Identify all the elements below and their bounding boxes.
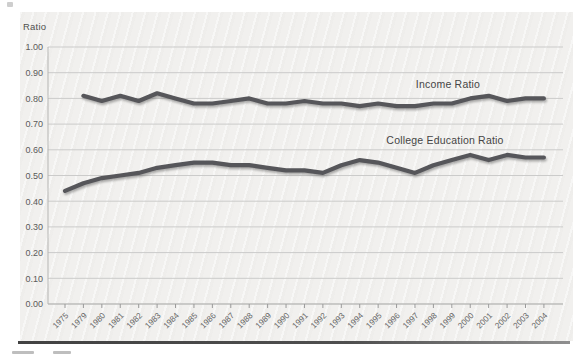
bottom-rule <box>18 341 570 344</box>
x-axis-tick-label: 1986 <box>199 311 219 331</box>
x-axis-tick-label: 1988 <box>235 311 255 331</box>
x-axis-tick-label: 1984 <box>162 311 182 331</box>
x-axis-tick-label: 1983 <box>143 311 163 331</box>
corner-artifact <box>7 2 13 7</box>
y-axis-tick-label: 0.00 <box>25 299 43 309</box>
x-axis-tick-label: 2001 <box>475 311 495 331</box>
y-axis-tick-label: 0.50 <box>25 171 43 181</box>
x-axis-tick-label: 1985 <box>180 311 200 331</box>
y-axis-tick-label: 0.30 <box>25 222 43 232</box>
x-axis-tick-label: 1990 <box>272 311 292 331</box>
x-axis-tick-label: 1979 <box>70 311 90 331</box>
y-axis-tick-label: 0.70 <box>25 119 43 129</box>
x-axis-tick-label: 1999 <box>438 311 458 331</box>
x-axis-tick-label: 1996 <box>383 311 403 331</box>
y-axis-tick-label: 0.40 <box>25 197 43 207</box>
page: { "window": { "width": 573, "height": 35… <box>0 0 573 356</box>
clipped-caption-fragment <box>53 351 71 354</box>
clipped-caption-fragment <box>12 351 34 354</box>
ratio-line-chart: 1.000.900.800.700.600.500.400.300.200.10… <box>20 12 573 341</box>
income-ratio-line <box>83 93 544 106</box>
y-axis-tick-label: 0.80 <box>25 94 43 104</box>
college-education-ratio-label: College Education Ratio <box>386 134 503 146</box>
x-axis-tick-label: 1995 <box>364 311 384 331</box>
x-axis-tick-label: 2002 <box>493 311 513 331</box>
y-axis-tick-label: 1.00 <box>25 42 43 52</box>
income-ratio-label: Income Ratio <box>416 78 480 90</box>
college-education-ratio-line <box>65 155 544 191</box>
x-axis-tick-label: 1992 <box>309 311 329 331</box>
x-axis-tick-label: 1980 <box>88 311 108 331</box>
y-axis-tick-label: 0.90 <box>25 68 43 78</box>
x-axis-tick-label: 2000 <box>456 311 476 331</box>
chart-panel: Ratio 1.000.900.800.700.600.500.400.300.… <box>20 12 573 341</box>
x-axis-tick-label: 1998 <box>420 311 440 331</box>
x-axis-tick-label: 1994 <box>346 311 366 331</box>
x-axis-tick-label: 1991 <box>291 311 311 331</box>
x-axis-tick-label: 1989 <box>254 311 274 331</box>
x-axis-tick-label: 1997 <box>401 311 421 331</box>
x-axis-tick-label: 1981 <box>106 311 126 331</box>
x-axis-tick-label: 1975 <box>51 311 71 331</box>
y-axis-tick-label: 0.20 <box>25 248 43 258</box>
x-axis-tick-label: 2003 <box>512 311 532 331</box>
y-axis-tick-label: 0.60 <box>25 145 43 155</box>
x-axis-tick-label: 1982 <box>125 311 145 331</box>
x-axis-tick-label: 1987 <box>217 311 237 331</box>
y-axis-tick-label: 0.10 <box>25 274 43 284</box>
x-axis-tick-label: 1993 <box>327 311 347 331</box>
x-axis-tick-label: 2004 <box>530 311 550 331</box>
